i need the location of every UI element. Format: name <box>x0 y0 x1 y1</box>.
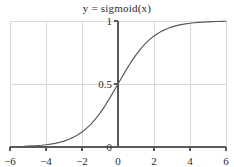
x-tick-label: −2 <box>76 155 88 167</box>
x-tick-label: 0 <box>115 155 121 167</box>
x-tick-label: 2 <box>151 155 157 167</box>
sigmoid-chart-figure: y = sigmoid(x) −6−4−2024600.51 <box>0 0 234 167</box>
y-tick-label: 1 <box>107 15 113 27</box>
x-tick-label: −6 <box>4 155 16 167</box>
x-tick-label: 4 <box>187 155 193 167</box>
x-tick-label: 6 <box>223 155 229 167</box>
plot-area: −6−4−2024600.51 <box>0 0 234 167</box>
y-tick-label: 0 <box>107 141 113 153</box>
y-tick-label: 0.5 <box>98 78 112 90</box>
x-tick-label: −4 <box>40 155 52 167</box>
tick-labels: −6−4−2024600.51 <box>4 15 229 167</box>
